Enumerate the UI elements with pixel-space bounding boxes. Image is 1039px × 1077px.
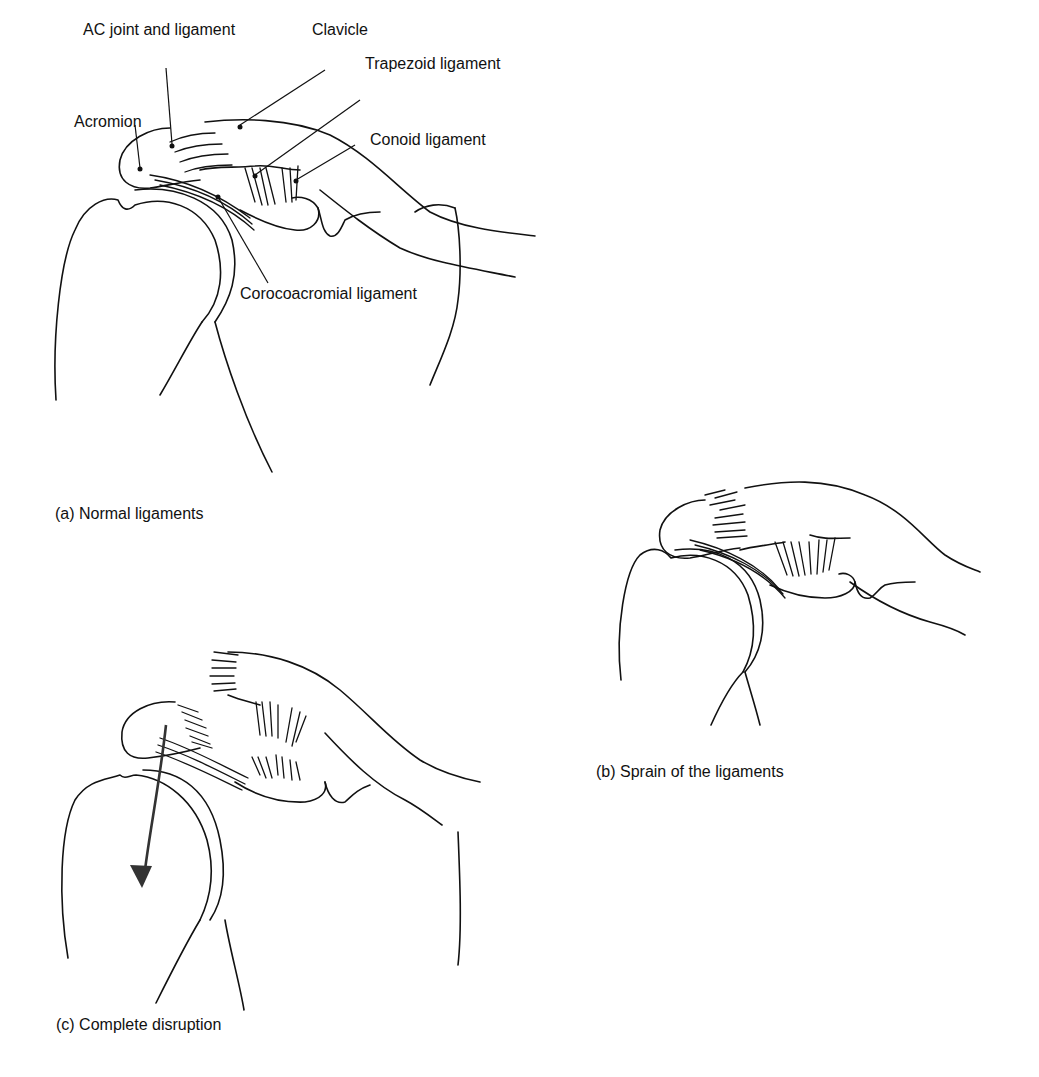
label-trapezoid-ligament: Trapezoid ligament: [365, 56, 500, 72]
caption-panel-a: (a) Normal ligaments: [55, 506, 203, 522]
caption-panel-c: (c) Complete disruption: [56, 1017, 221, 1033]
label-corocoacromial-ligament: Corocoacromial ligament: [240, 286, 417, 302]
label-acromion: Acromion: [74, 114, 142, 130]
downward-arrow-icon: [130, 865, 152, 888]
panel-b-drawing: [619, 482, 980, 725]
label-ac-joint: AC joint and ligament: [83, 22, 235, 38]
downward-arrow-shaft: [145, 725, 166, 870]
coracoid-outline: [240, 197, 319, 230]
caption-panel-b: (b) Sprain of the ligaments: [596, 764, 784, 780]
label-clavicle: Clavicle: [312, 22, 368, 38]
humeral-head-outline: [55, 199, 221, 400]
acromion-outline: [119, 128, 200, 188]
label-conoid-ligament: Conoid ligament: [370, 132, 486, 148]
figure-canvas: [0, 0, 1039, 1077]
panel-c-drawing: [62, 652, 480, 1010]
